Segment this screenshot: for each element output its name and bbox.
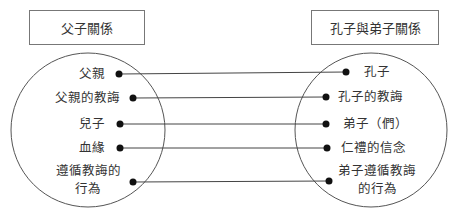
right-item-label: 弟子遵循教誨 (336, 163, 418, 178)
left-item-3: 兒子 (79, 116, 105, 131)
left-dot-2 (130, 95, 137, 102)
right-item-label: 孔子 (364, 64, 390, 79)
connector-line-5 (133, 181, 329, 182)
right-item-label: 孔子的教誨 (338, 89, 403, 104)
right-dot-3 (323, 121, 330, 128)
left-item-label: 遵循教誨的 (52, 163, 124, 178)
connector-line-1 (119, 72, 346, 74)
right-item-3: 弟子（們） (343, 116, 408, 131)
right-item-2: 孔子的教誨 (338, 89, 403, 104)
right-item-4: 仁禮的信念 (341, 140, 406, 155)
left-dot-1 (116, 71, 123, 78)
right-dot-2 (323, 94, 330, 101)
left-item-1: 父親 (79, 66, 105, 81)
left-dot-3 (117, 121, 124, 128)
left-item-5: 遵循教誨的 行為 (52, 163, 124, 196)
left-group-title: 父子關係 (61, 18, 113, 37)
connector-line-2 (133, 97, 326, 98)
left-group-title-box: 父子關係 (29, 10, 145, 45)
right-item-5: 弟子遵循教誨 的行為 (336, 163, 418, 196)
left-item-label: 父親的教誨 (55, 90, 120, 105)
right-group-title-box: 孔子與弟子關係 (311, 10, 439, 45)
left-dot-4 (117, 145, 124, 152)
left-item-label: 兒子 (79, 116, 105, 131)
left-item-2: 父親的教誨 (55, 90, 120, 105)
right-dot-5 (326, 178, 333, 185)
right-group-title: 孔子與弟子關係 (330, 18, 421, 37)
left-item-label: 血緣 (79, 140, 105, 155)
left-item-label-line2: 行為 (52, 181, 124, 196)
right-dot-4 (324, 145, 331, 152)
right-item-label: 弟子（們） (343, 116, 408, 131)
left-item-label: 父親 (79, 66, 105, 81)
right-item-label-line2: 的行為 (336, 181, 418, 196)
right-item-label: 仁禮的信念 (341, 140, 406, 155)
right-dot-1 (343, 69, 350, 76)
left-dot-5 (130, 179, 137, 186)
right-item-1: 孔子 (364, 64, 390, 79)
left-item-4: 血緣 (79, 140, 105, 155)
